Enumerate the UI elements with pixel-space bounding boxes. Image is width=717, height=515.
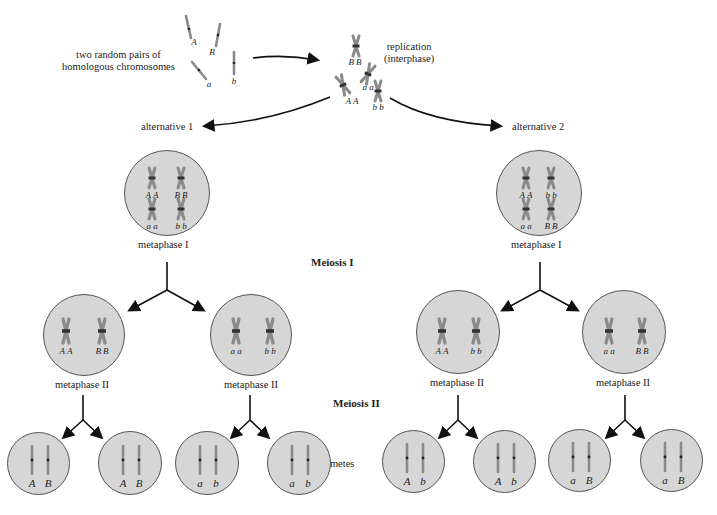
allele-label: A xyxy=(190,38,198,47)
metaphase-2-cell-3: A A b b xyxy=(416,290,500,374)
gamete-7: a B xyxy=(548,429,611,492)
allele-label: a xyxy=(565,476,581,485)
allele-label: a a xyxy=(516,222,536,231)
allele-label: b xyxy=(506,477,522,486)
allele-label: A xyxy=(24,479,40,488)
start-chromosome-B xyxy=(216,24,220,46)
metaphase-2-label-4: metaphase II xyxy=(596,377,650,389)
gamete-6: A b xyxy=(473,430,536,493)
allele-label: B B xyxy=(345,58,365,67)
allele-label: a a xyxy=(142,222,162,231)
allele-label: A A xyxy=(56,347,76,356)
allele-label: a xyxy=(657,476,673,485)
allele-label: B B xyxy=(541,222,561,231)
intro-label: two random pairs of homologous chromosom… xyxy=(62,49,175,73)
alternative-1-label: alternative 1 xyxy=(141,121,193,133)
metaphase-2-label-3: metaphase II xyxy=(430,377,484,389)
gamete-1: A B xyxy=(7,432,70,495)
allele-label: B B xyxy=(92,347,112,356)
allele-label: B xyxy=(581,476,597,485)
allele-label: b xyxy=(415,477,431,486)
gamete-3: a b xyxy=(175,431,239,495)
meiosis-2-label: Meiosis II xyxy=(333,397,380,409)
metaphase-2-cell-1: A A B B xyxy=(43,294,125,376)
metaphase-1-label-alt2: metaphase I xyxy=(511,239,561,251)
metaphase-2-cell-2: a a b b xyxy=(210,294,292,376)
meiosis-1-label: Meiosis I xyxy=(311,256,353,268)
metaphase-2-label-2: metaphase II xyxy=(224,379,278,391)
allele-label: b b xyxy=(260,347,280,356)
gamete-4: a b xyxy=(267,431,331,495)
metaphase-1-cell-alt2: A A b b a a B B xyxy=(496,150,582,236)
allele-label: A xyxy=(399,477,415,486)
allele-label: B B xyxy=(171,191,191,200)
metaphase-1-cell-alt1: A A B B a a b b xyxy=(124,150,210,236)
allele-label: b b xyxy=(541,191,561,200)
allele-label: a xyxy=(192,479,208,488)
alternative-2-label: alternative 2 xyxy=(512,121,564,133)
replication-line-1: replication xyxy=(384,41,434,53)
start-chromosome-A xyxy=(186,16,191,38)
allele-label: b b xyxy=(171,222,191,231)
intro-line-2: homologous chromosomes xyxy=(62,61,175,73)
allele-label: a a xyxy=(358,83,378,92)
allele-label: a xyxy=(205,80,213,89)
allele-label: A A xyxy=(516,191,536,200)
gamete-5: A b xyxy=(382,430,445,493)
allele-label: a a xyxy=(226,347,246,356)
gamete-8: a B xyxy=(640,429,703,492)
allele-label: A xyxy=(115,479,131,488)
metaphase-1-label-alt1: metaphase I xyxy=(138,239,188,251)
allele-label: b b xyxy=(466,347,486,356)
allele-label: b b xyxy=(368,103,388,112)
allele-label: A A xyxy=(142,191,162,200)
start-chromosome-b xyxy=(233,52,236,74)
allele-label: A A xyxy=(432,347,452,356)
replication-label: replication (interphase) xyxy=(384,41,434,65)
allele-label: a xyxy=(284,479,300,488)
allele-label: B B xyxy=(632,347,652,356)
intro-line-1: two random pairs of xyxy=(62,49,175,61)
allele-label: A A xyxy=(342,97,362,106)
replication-line-2: (interphase) xyxy=(384,53,434,65)
allele-label: B xyxy=(131,479,147,488)
meiosis-diagram: two random pairs of homologous chromosom… xyxy=(0,0,717,515)
allele-label: A xyxy=(490,477,506,486)
metaphase-2-cell-4: a a B B xyxy=(582,290,666,374)
allele-label: B xyxy=(208,48,216,57)
allele-label: b xyxy=(230,77,238,86)
allele-label: B xyxy=(673,476,689,485)
allele-label: B xyxy=(40,479,56,488)
start-chromosome-a xyxy=(192,62,206,79)
allele-label: b xyxy=(300,479,316,488)
allele-label: b xyxy=(208,479,224,488)
allele-label: a a xyxy=(599,347,619,356)
metaphase-2-label-1: metaphase II xyxy=(55,379,109,391)
gamete-2: A B xyxy=(98,431,162,495)
